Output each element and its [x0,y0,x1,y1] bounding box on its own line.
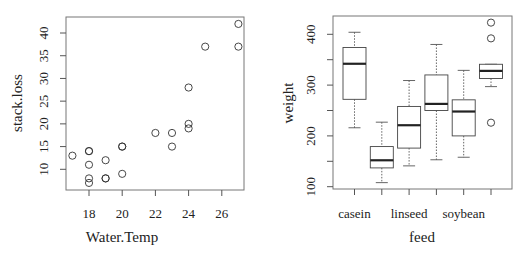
iqr-box [452,100,475,136]
data-point [102,175,109,182]
data-point [185,120,192,127]
x-axis-label: feed [409,229,435,245]
x-axis-label: Water.Temp [86,229,158,245]
x-tick-label: soybean [442,206,485,221]
x-axis: 1820222426 [83,190,229,221]
x-tick-label: 24 [182,206,196,221]
y-tick-label: 35 [36,49,51,62]
data-point [119,170,126,177]
data-point [152,129,159,136]
outlier-point [487,19,494,26]
data-point [235,43,242,50]
box-casein [343,32,366,128]
y-tick-label: 300 [303,75,318,95]
x-tick-label: casein [338,206,371,221]
box-horsebean [370,122,393,182]
y-axis-label: weight [280,82,296,124]
box-sunflower [480,19,503,126]
data-point [185,84,192,91]
y-axis-label: stack.loss [9,74,25,132]
x-tick-label: linseed [391,206,428,221]
x-tick-label: 26 [215,206,229,221]
iqr-box [370,147,393,168]
y-tick-label: 30 [36,72,51,85]
y-tick-label: 200 [303,126,318,146]
data-point [202,43,209,50]
x-tick-label: 18 [83,206,96,221]
data-point [168,143,175,150]
x-axis: caseinlinseedsoybean [338,189,491,221]
x-tick-label: 22 [149,206,162,221]
y-tick-label: 15 [36,140,51,153]
y-tick-label: 100 [303,177,318,197]
iqr-box [425,75,448,111]
data-point [102,157,109,164]
y-tick-label: 20 [36,117,51,130]
outlier-point [487,35,494,42]
y-axis: 100200300400 [303,25,333,197]
box-soybean [452,70,475,157]
boxes [343,19,503,183]
outlier-point [487,119,494,126]
y-tick-label: 25 [36,95,51,108]
iqr-box [343,48,366,100]
data-points [69,20,242,186]
data-point [69,152,76,159]
data-point [85,179,92,186]
x-tick-label: 20 [116,206,129,221]
data-point [235,20,242,27]
scatter-plot: 10152025303540 1820222426 Water.Temp sta… [9,17,244,245]
iqr-box [398,106,421,148]
y-tick-label: 400 [303,25,318,45]
y-axis: 10152025303540 [36,27,66,176]
box-meatmeal [425,44,448,159]
data-point [85,148,92,155]
plot-frame [333,16,512,189]
data-point [168,129,175,136]
boxplot: 100200300400 caseinlinseedsoybean feed w… [280,16,512,245]
y-tick-label: 40 [36,27,51,40]
y-tick-label: 10 [36,163,51,176]
data-point [119,143,126,150]
figure: 10152025303540 1820222426 Water.Temp sta… [0,0,528,257]
data-point [85,161,92,168]
box-linseed [398,81,421,166]
